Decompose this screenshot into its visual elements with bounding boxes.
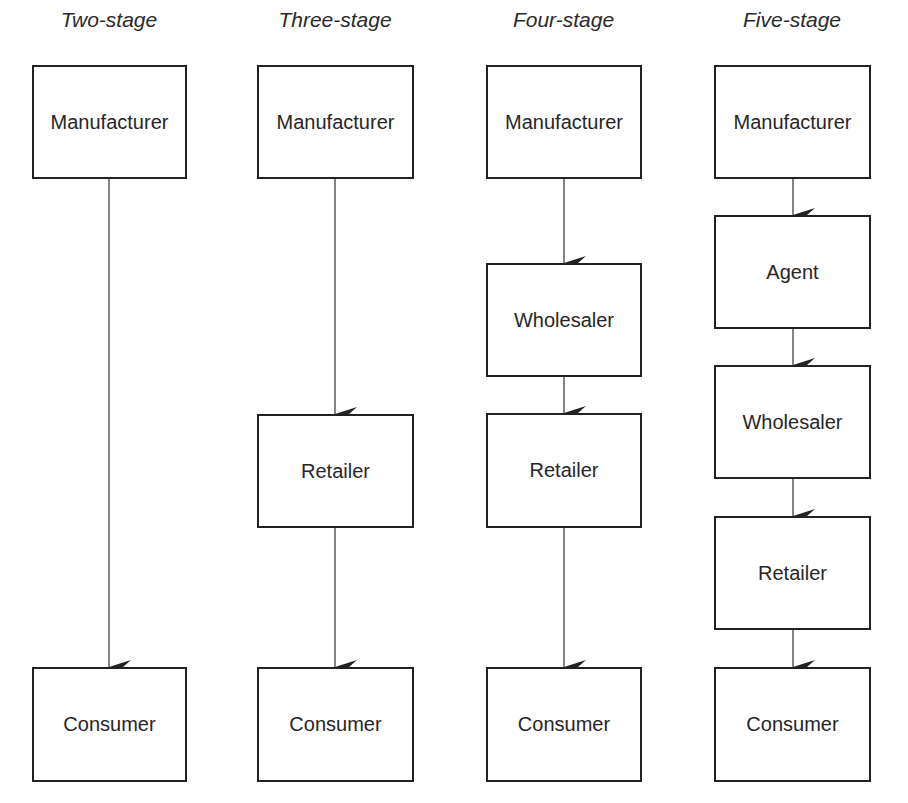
node-label: Manufacturer (734, 111, 852, 134)
node-label: Consumer (63, 713, 155, 736)
node-four-stage-retailer: Retailer (486, 413, 642, 528)
node-five-stage-manufacturer: Manufacturer (714, 65, 871, 179)
node-label: Retailer (758, 562, 827, 585)
node-five-stage-consumer: Consumer (714, 667, 871, 782)
node-four-stage-consumer: Consumer (486, 667, 642, 782)
node-four-stage-manufacturer: Manufacturer (486, 65, 642, 179)
node-label: Retailer (301, 460, 370, 483)
node-label: Manufacturer (277, 111, 395, 134)
node-label: Manufacturer (505, 111, 623, 134)
node-two-stage-manufacturer: Manufacturer (32, 65, 187, 179)
node-label: Agent (766, 261, 818, 284)
node-label: Wholesaler (514, 309, 614, 332)
node-two-stage-consumer: Consumer (32, 667, 187, 782)
node-three-stage-manufacturer: Manufacturer (257, 65, 414, 179)
node-label: Retailer (530, 459, 599, 482)
node-three-stage-consumer: Consumer (257, 667, 414, 782)
node-five-stage-retailer: Retailer (714, 516, 871, 630)
node-three-stage-retailer: Retailer (257, 414, 414, 528)
node-five-stage-agent: Agent (714, 215, 871, 329)
node-label: Manufacturer (51, 111, 169, 134)
node-four-stage-wholesaler: Wholesaler (486, 263, 642, 377)
node-label: Consumer (746, 713, 838, 736)
node-label: Consumer (518, 713, 610, 736)
node-label: Wholesaler (742, 411, 842, 434)
node-five-stage-wholesaler: Wholesaler (714, 365, 871, 479)
node-label: Consumer (289, 713, 381, 736)
